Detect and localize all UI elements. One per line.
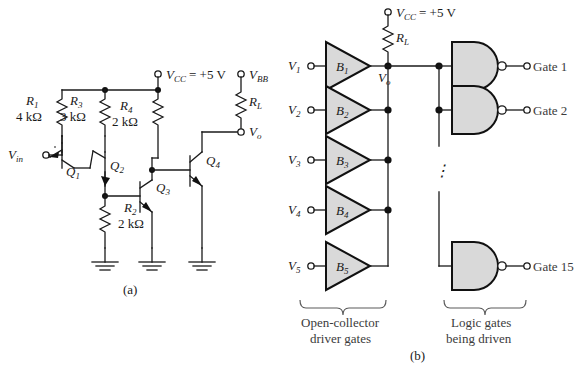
v3-terminal[interactable] xyxy=(308,157,314,163)
gate1-label: Gate 1 xyxy=(533,59,567,74)
brace-left-line1: Open-collector xyxy=(301,315,380,330)
vcc-terminal-a: VCC= +5 V xyxy=(155,67,227,90)
buffer-b4[interactable]: V4 B4 xyxy=(288,186,392,234)
gate15-output-terminal[interactable] xyxy=(524,263,530,269)
v5-label: V5 xyxy=(288,258,301,275)
transistor-q4: Q4 xyxy=(190,132,220,248)
vcc-label-a: VCC= +5 V xyxy=(166,67,226,84)
brace-left-line2: driver gates xyxy=(310,331,371,346)
buffer-b5[interactable]: V5 B5 xyxy=(288,242,388,290)
brace-open-collector: Open-collector driver gates xyxy=(300,300,386,346)
v4-terminal[interactable] xyxy=(308,207,314,213)
vin-label: Vin xyxy=(8,147,23,164)
circuit-a: VCC= +5 V R1 4 kΩ R3 3 kΩ R4 xyxy=(8,67,268,297)
transistor-q2: Q2 xyxy=(90,136,124,196)
transistor-q3: Q3 xyxy=(140,170,170,248)
resistor-r4: R4 2 kΩ xyxy=(105,90,163,158)
brace-right-line1: Logic gates xyxy=(451,315,511,330)
bus-junction-3 xyxy=(384,156,391,163)
r2-label: R2 xyxy=(123,200,137,217)
r4-value: 2 kΩ xyxy=(112,114,138,129)
q1-label: Q1 xyxy=(66,164,80,181)
buffer-b2[interactable]: V2 B2 xyxy=(288,86,392,134)
nand-gate-1[interactable]: Gate 1 xyxy=(452,42,567,90)
r1-label: R1 xyxy=(25,93,38,110)
gate2-inversion-bubble xyxy=(498,106,506,114)
v1-terminal[interactable] xyxy=(308,63,314,69)
r3-label: R3 xyxy=(69,93,83,110)
ground-2 xyxy=(139,248,165,270)
gate15-label: Gate 15 xyxy=(533,259,574,274)
r4-label: R4 xyxy=(119,98,133,115)
buffer-b1[interactable]: V1 B1 xyxy=(288,42,388,90)
bus-junction-4 xyxy=(384,206,391,213)
gate15-inversion-bubble xyxy=(498,262,506,270)
v3-label: V3 xyxy=(288,152,301,169)
r3-value: 3 kΩ xyxy=(60,109,86,124)
figure-open-collector-ttl: VCC= +5 V R1 4 kΩ R3 3 kΩ R4 xyxy=(0,0,578,369)
v2-label: V2 xyxy=(288,102,301,119)
ground-3 xyxy=(189,248,215,270)
vo-label-b: Vo xyxy=(378,70,391,87)
gate1-output-terminal[interactable] xyxy=(524,63,530,69)
bus-junction-2 xyxy=(384,106,391,113)
vcc-label-b: VCC= +5 V xyxy=(396,5,456,22)
caption-a: (a) xyxy=(123,282,137,297)
circuit-b: VCC= +5 V RL Vo V1 B1 xyxy=(288,5,574,363)
v4-label: V4 xyxy=(288,202,301,219)
resistor-r3: R3 3 kΩ xyxy=(60,90,110,136)
q2-label: Q2 xyxy=(110,158,124,175)
bus-ellipsis: ⋮ xyxy=(434,162,450,179)
brace-logic-gates: Logic gates being driven xyxy=(444,300,526,346)
v2-terminal[interactable] xyxy=(308,107,314,113)
q3-label: Q3 xyxy=(156,180,170,197)
v1-label: V1 xyxy=(288,58,300,75)
buffer-b3[interactable]: V3 B3 xyxy=(288,136,392,184)
vbb-label: VBB xyxy=(249,67,268,84)
caption-b: (b) xyxy=(410,348,425,363)
rl-label-a: RL xyxy=(248,94,262,111)
vcc-terminal-b: VCC= +5 V RL xyxy=(383,5,456,66)
vo-terminal-a xyxy=(238,129,244,135)
nand-gate-15[interactable]: Gate 15 xyxy=(452,242,574,290)
r2-value: 2 kΩ xyxy=(118,216,144,231)
rl-label-b: RL xyxy=(395,30,409,47)
brace-right-line2: being driven xyxy=(446,331,512,346)
q4-label: Q4 xyxy=(206,153,220,170)
transistor-q1: Q1 xyxy=(49,136,90,181)
nand-gate-2[interactable]: Gate 2 xyxy=(452,86,567,134)
resistor-r2: R2 2 kΩ xyxy=(100,196,144,248)
ground-1 xyxy=(92,248,118,270)
vbb-rl-vo-branch: VBB RL Vo xyxy=(236,67,268,141)
gate1-inversion-bubble xyxy=(498,62,506,70)
v5-terminal[interactable] xyxy=(308,263,314,269)
gate2-label: Gate 2 xyxy=(533,103,567,118)
vo-label-a: Vo xyxy=(249,124,262,141)
r1-value: 4 kΩ xyxy=(16,109,42,124)
gate2-output-terminal[interactable] xyxy=(524,107,530,113)
